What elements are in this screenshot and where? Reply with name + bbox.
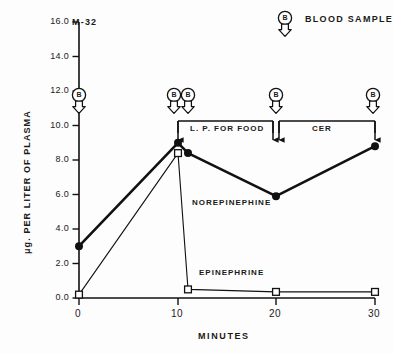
blood-sample-b-glyph-30min: B [370, 91, 375, 98]
y-tick-label-2: 2.0 [38, 258, 69, 268]
bracket-label-cer: CER [312, 124, 332, 133]
bracket-label-lp-for-food: L. P. FOR FOOD [190, 124, 264, 133]
series-norepinephine [75, 139, 379, 250]
x-tick-label-10: 10 [171, 308, 183, 319]
blood-sample-b-glyph-20min: B [273, 91, 278, 98]
figure-container: M-32 BLOOD SAMPLE B B B B B B L. P. FOR … [0, 0, 394, 353]
x-tick-label-30: 30 [368, 308, 380, 319]
blood-sample-b-glyph-11min: B [185, 91, 190, 98]
y-tick-label-6: 6.0 [38, 189, 69, 199]
legend-b-glyph: B [282, 14, 287, 21]
x-tick-label-0: 0 [75, 308, 81, 319]
x-tick-label-20: 20 [269, 308, 281, 319]
x-axis-title: MINUTES [198, 331, 250, 341]
series-label-epinephrine: EPINEPHRINE [199, 268, 264, 277]
y-tick-label-10: 10.0 [38, 120, 69, 130]
y-tick-label-8: 8.0 [38, 154, 69, 164]
blood-sample-b-glyph-10min: B [171, 91, 176, 98]
y-axis [73, 22, 80, 298]
series-label-norepinephine: NOREPINEPHINE [192, 198, 271, 207]
y-tick-label-4: 4.0 [38, 223, 69, 233]
y-tick-label-0: 0.0 [38, 292, 69, 302]
subject-id-label: M-32 [72, 17, 97, 27]
y-tick-label-16: 16.0 [38, 16, 69, 26]
legend-blood-sample-label: BLOOD SAMPLE [305, 14, 393, 24]
y-axis-title: μg. PER LITER OF PLASMA [22, 110, 32, 254]
y-tick-label-12: 12.0 [38, 85, 69, 95]
y-tick-label-14: 14.0 [38, 51, 69, 61]
blood-sample-b-glyph-0min: B [76, 91, 81, 98]
x-axis [79, 298, 375, 305]
